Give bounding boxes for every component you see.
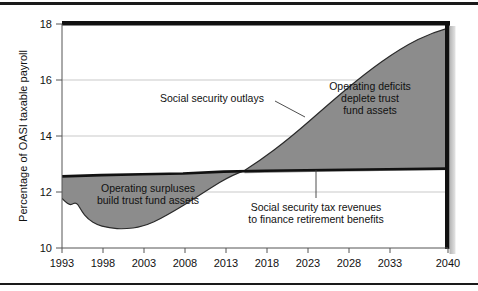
annotation-tax-revenues-line1: Social security tax revenues: [251, 201, 382, 213]
y-axis-ticks: [56, 24, 62, 248]
y-tick-label-14: 14: [40, 130, 52, 142]
y-tick-label-10: 10: [40, 242, 52, 254]
plot-shadow: [450, 26, 456, 254]
x-tick-label-1998: 1998: [91, 257, 115, 269]
plot-right-border: [445, 21, 450, 249]
annotation-operating-deficits-line1: Operating deficits: [329, 80, 411, 92]
y-tick-label-12: 12: [40, 186, 52, 198]
x-tick-label-2033: 2033: [378, 257, 402, 269]
annotation-tax-revenues-line2: to finance retirement benefits: [248, 213, 383, 225]
x-tick-label-2003: 2003: [132, 257, 156, 269]
x-tick-label-2018: 2018: [255, 257, 279, 269]
x-tick-label-2023: 2023: [296, 257, 320, 269]
x-tick-label-2040: 2040: [436, 257, 460, 269]
y-tick-label-18: 18: [40, 18, 52, 30]
annotation-operating-deficits-line2: deplete trust: [341, 92, 399, 104]
annotation-tax-revenues: Social security tax revenues to finance …: [248, 201, 383, 225]
annotation-operating-surpluses-line1: Operating surpluses: [101, 182, 195, 194]
plot-top-border: [62, 21, 450, 26]
x-axis-ticks: [62, 248, 448, 253]
annotation-social-security-outlays: Social security outlays: [160, 92, 264, 104]
x-tick-label-2028: 2028: [337, 257, 361, 269]
y-tick-label-16: 16: [40, 74, 52, 86]
figure-container: 18 16 14 12 10 1993 1998 2003 2008 2013 …: [0, 0, 478, 291]
social-security-outlays-vs-revenues-chart: 18 16 14 12 10 1993 1998 2003 2008 2013 …: [0, 0, 478, 291]
x-tick-label-1993: 1993: [50, 257, 74, 269]
x-tick-label-2008: 2008: [173, 257, 197, 269]
annotation-operating-deficits-line3: fund assets: [343, 104, 397, 116]
annotation-operating-surpluses: Operating surpluses build trust fund ass…: [97, 182, 199, 206]
annotation-operating-surpluses-line2: build trust fund assets: [97, 194, 199, 206]
y-axis-title: Percentage of OASI taxable payroll: [17, 50, 29, 222]
x-tick-label-2013: 2013: [214, 257, 238, 269]
